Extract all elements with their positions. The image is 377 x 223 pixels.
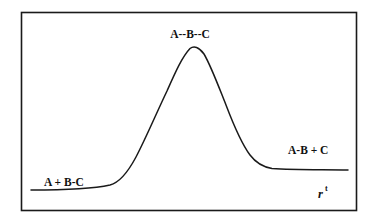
diagram-canvas: A--B--C A + B-C A-B + C r t [0,0,377,223]
reactants-label: A + B-C [44,176,84,188]
reaction-coordinate-diagram: A--B--C A + B-C A-B + C r t [0,0,377,223]
products-label: A-B + C [288,144,328,156]
axis-label-symbol: r [318,187,323,201]
axis-label-superscript: t [325,184,328,193]
transition-state-label: A--B--C [170,28,210,40]
